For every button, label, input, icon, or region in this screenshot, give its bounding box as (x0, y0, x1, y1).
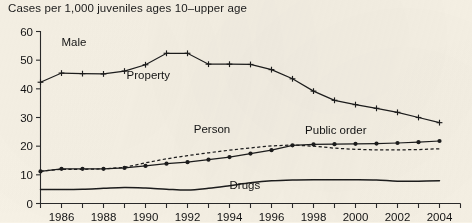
series-marker-public-order (311, 142, 315, 146)
series-label-public-order: Public order (305, 124, 367, 136)
x-axis-tick-label: 2004 (427, 211, 453, 223)
x-axis-tick-label: 2000 (343, 211, 369, 223)
series-marker-public-order (80, 167, 84, 171)
chart-container: Cases per 1,000 juveniles ages 10–upper … (0, 0, 472, 222)
x-axis-tick-label: 1992 (175, 211, 201, 223)
series-marker-public-order (353, 142, 357, 146)
series-line-public-order (41, 141, 440, 171)
series-marker-public-order (206, 158, 210, 162)
y-axis-tick-label: 20 (20, 140, 33, 152)
x-axis-tick-label: 1986 (49, 211, 75, 223)
chart-subtitle-male: Male (62, 36, 87, 48)
x-axis-tick-label: 1988 (91, 211, 117, 223)
series-marker-public-order (269, 148, 273, 152)
line-chart-plot: 0102030405060198619881990199219941996199… (0, 0, 472, 222)
series-marker-public-order (332, 142, 336, 146)
series-marker-public-order (59, 167, 63, 171)
series-line-property (41, 53, 440, 122)
series-marker-public-order (248, 152, 252, 156)
y-axis-tick-label: 30 (20, 112, 33, 124)
series-marker-public-order (437, 139, 441, 143)
x-axis-tick-label: 2002 (385, 211, 411, 223)
series-marker-public-order (101, 167, 105, 171)
series-label-drugs: Drugs (230, 179, 261, 191)
x-axis-tick-label: 1998 (301, 211, 327, 223)
series-line-person (41, 145, 440, 171)
series-marker-public-order (227, 155, 231, 159)
series-marker-public-order (185, 160, 189, 164)
series-marker-public-order (38, 169, 42, 173)
y-axis-tick-label: 40 (20, 83, 33, 95)
y-axis-tick-label: 10 (20, 169, 33, 181)
series-marker-public-order (395, 141, 399, 145)
series-marker-public-order (164, 162, 168, 166)
x-axis-tick-label: 1994 (217, 211, 243, 223)
series-label-person: Person (194, 123, 230, 135)
series-marker-public-order (143, 164, 147, 168)
y-axis-tick-label: 0 (27, 198, 33, 210)
series-marker-public-order (122, 166, 126, 170)
series-marker-public-order (290, 143, 294, 147)
x-axis-tick-label: 1996 (259, 211, 285, 223)
series-label-property: Property (127, 69, 171, 81)
x-axis-tick-label: 1990 (133, 211, 159, 223)
y-axis-tick-label: 60 (20, 26, 33, 38)
y-axis-tick-label: 50 (20, 54, 33, 66)
series-marker-public-order (416, 140, 420, 144)
series-marker-public-order (374, 141, 378, 145)
chart-axes (41, 31, 461, 204)
